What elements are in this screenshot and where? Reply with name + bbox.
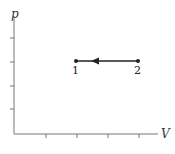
point-1 [74,59,78,63]
y-axis-label: p [11,7,19,21]
point-2-label: 2 [134,64,141,77]
x-ticks [46,134,139,138]
pv-diagram: p V 1 2 [0,0,175,154]
x-axis-label: V [161,127,171,141]
point-2 [136,59,140,63]
y-ticks [10,38,14,109]
point-1-label: 1 [72,64,79,77]
arrowhead-left-icon [91,58,99,65]
